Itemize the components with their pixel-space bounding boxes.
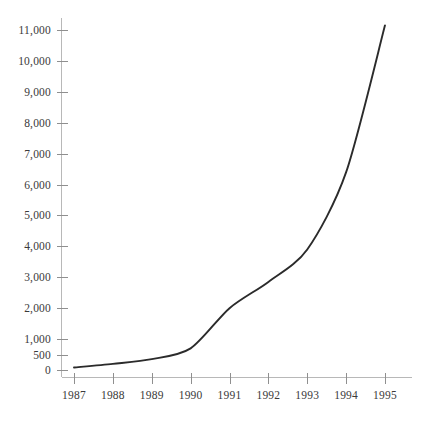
y-tick-label: 8,000	[24, 117, 51, 130]
y-tick-label: 10,000	[18, 55, 51, 68]
y-tick-label: 3,000	[24, 271, 51, 284]
y-tick-label: 11,000	[19, 24, 51, 37]
x-tick-label: 1988	[101, 389, 125, 401]
y-tick-label: 9,000	[24, 86, 51, 99]
x-tick-label: 1992	[256, 389, 280, 401]
x-tick-label: 1989	[140, 389, 164, 401]
y-tick-label: 7,000	[24, 148, 51, 161]
y-tick-label: 500	[33, 349, 51, 361]
x-tick-label: 1994	[334, 389, 358, 401]
x-tick-label: 1990	[179, 389, 203, 401]
line-chart: 05001,0002,0003,0004,0005,0006,0007,0008…	[0, 0, 432, 427]
y-tick-label: 2,000	[24, 302, 51, 315]
y-tick-label: 5,000	[24, 209, 51, 222]
y-tick-label: 6,000	[24, 179, 51, 192]
x-tick-label: 1991	[218, 389, 242, 401]
x-tick-label: 1987	[62, 389, 86, 401]
x-tick-label: 1995	[373, 389, 397, 401]
chart-container: 05001,0002,0003,0004,0005,0006,0007,0008…	[0, 0, 432, 427]
y-tick-label: 0	[45, 364, 51, 376]
x-tick-label: 1993	[295, 389, 319, 401]
y-tick-label: 4,000	[24, 240, 51, 253]
y-tick-label: 1,000	[24, 333, 51, 346]
chart-background	[0, 0, 432, 427]
